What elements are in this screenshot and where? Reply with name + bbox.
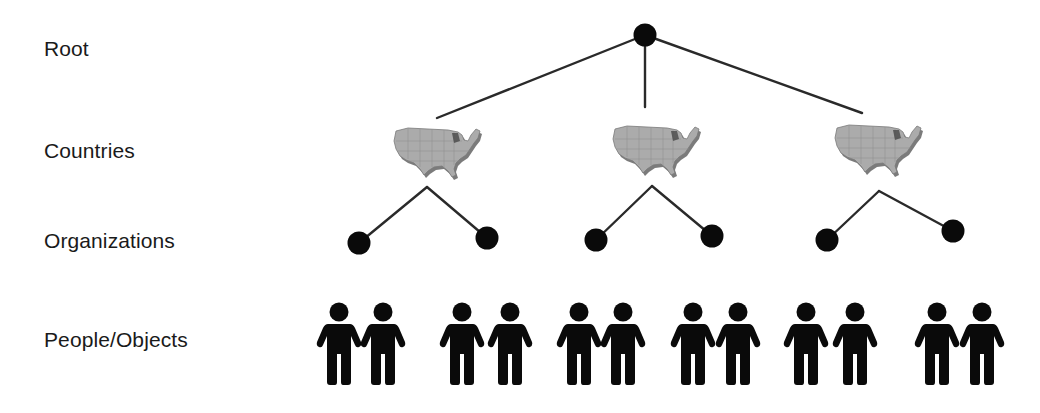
person-icon [671, 303, 716, 386]
organization-node-icon [701, 225, 724, 248]
person-icon [557, 303, 602, 386]
person-icon [716, 303, 761, 386]
us-map-icon [394, 128, 482, 180]
organization-node-icon [476, 227, 499, 250]
edge-country-2-org-1 [596, 186, 652, 240]
person-icon [317, 303, 362, 386]
person-icon [784, 303, 829, 386]
person-icon [488, 303, 533, 386]
edge-country-3-org-2 [879, 191, 953, 231]
root-node-icon [634, 24, 657, 47]
person-icon [601, 303, 646, 386]
hierarchy-diagram [0, 0, 1040, 413]
organization-node-icon [816, 229, 839, 252]
organization-node-icon [585, 229, 608, 252]
edge-country-2-org-2 [652, 186, 712, 236]
person-icon [833, 303, 878, 386]
us-map-icon [613, 126, 701, 178]
person-icon [915, 303, 960, 386]
edge-country-1-org-1 [359, 187, 427, 243]
person-icon [361, 303, 406, 386]
us-map-icon [835, 125, 923, 177]
person-icon [960, 303, 1005, 386]
organization-node-icon [942, 220, 965, 243]
edge-root-country-1 [437, 35, 645, 118]
edge-country-1-org-2 [427, 187, 487, 238]
edge-root-country-3 [645, 35, 862, 113]
organization-node-icon [348, 232, 371, 255]
person-icon [440, 303, 485, 386]
